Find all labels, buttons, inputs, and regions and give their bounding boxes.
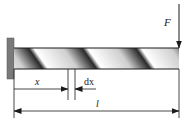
x-label: x: [34, 76, 40, 87]
length-label: l: [96, 98, 99, 109]
cantilever-beam-diagram: F x dx l: [0, 0, 184, 134]
beam: [14, 48, 179, 69]
force-label: F: [163, 16, 171, 28]
dx-label: dx: [84, 76, 94, 87]
wall-support: [7, 38, 14, 79]
